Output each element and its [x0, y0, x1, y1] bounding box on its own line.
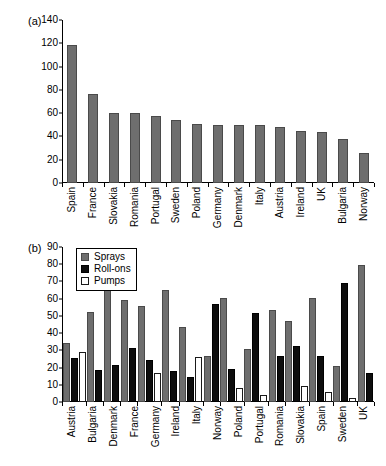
bar-group	[244, 247, 268, 402]
bar	[277, 356, 284, 402]
bar	[179, 327, 186, 402]
x-axis-tick-label: France	[130, 406, 140, 437]
legend-item: Roll-ons	[81, 263, 131, 275]
bar	[171, 120, 181, 183]
legend-item: Sprays	[81, 251, 131, 263]
x-axis-tick-label: Austria	[67, 406, 77, 437]
bar-group	[62, 20, 83, 183]
y-axis-tick-mark	[59, 367, 62, 368]
x-axis-tick-label: UK	[359, 406, 369, 420]
x-axis-label-cell: Ireland	[166, 404, 187, 464]
y-axis-tick-mark	[59, 298, 62, 299]
bar-group	[83, 20, 104, 183]
x-axis-tick-label: Portugal	[255, 406, 265, 443]
x-axis-label-cell: Italy	[249, 185, 270, 235]
x-axis-tick-label: Germany	[151, 406, 161, 447]
bar-group	[104, 20, 125, 183]
y-axis-tick-mark	[59, 281, 62, 282]
bar-group	[208, 20, 229, 183]
legend-swatch	[81, 277, 89, 285]
x-axis-label-cell: Sweden	[166, 185, 187, 235]
x-axis-label-cell: Denmark	[228, 185, 249, 235]
x-axis-tick-label: Romania	[130, 187, 140, 227]
x-axis-label-cell: Portugal	[249, 404, 270, 464]
x-axis-tick-label: UK	[317, 187, 327, 201]
x-axis-tick-label: Denmark	[234, 187, 244, 228]
chart-panel-a: (a) 020406080100120140 SpainFranceSlovak…	[0, 0, 386, 240]
x-axis-tick-label: Bulgaria	[88, 406, 98, 443]
bar	[192, 124, 202, 183]
bar	[154, 373, 161, 402]
bar	[63, 343, 70, 402]
y-axis-tick-mark	[59, 89, 62, 90]
bar	[121, 300, 128, 402]
x-axis-tick-label: Denmark	[109, 406, 119, 447]
bar-group	[145, 20, 166, 183]
bar	[359, 153, 369, 183]
bar	[244, 349, 251, 402]
bar-group	[357, 247, 374, 402]
bar	[213, 125, 223, 183]
x-axis-label-cell: Sweden	[332, 404, 353, 464]
bar	[341, 283, 348, 402]
bar	[151, 116, 161, 183]
x-axis-label-cell: UK	[312, 185, 333, 235]
bar	[301, 386, 308, 402]
x-axis-label-cell: Romania	[270, 404, 291, 464]
x-axis-label-cell: UK	[353, 404, 374, 464]
bar-group	[291, 20, 312, 183]
x-axis-tick-mark	[374, 402, 375, 406]
x-axis-tick-label: Poland	[234, 406, 244, 437]
x-axis-label-cell: Portugal	[145, 185, 166, 235]
x-axis-tick-label: Bulgaria	[338, 187, 348, 224]
x-axis-tick-label: Germany	[213, 187, 223, 228]
bar	[109, 113, 119, 183]
bar	[255, 125, 265, 183]
plot-area-a: 020406080100120140	[62, 20, 374, 183]
bar	[104, 290, 111, 402]
x-axis-tick-label: Austria	[275, 187, 285, 218]
x-axis-label-cell: Slovakia	[291, 404, 312, 464]
bar	[317, 132, 327, 183]
bar	[71, 358, 78, 402]
bar	[130, 113, 140, 183]
x-axis-label-cell: Norway	[208, 404, 229, 464]
x-axis-tick-label: Spain	[317, 406, 327, 432]
bar-group	[332, 20, 353, 183]
bar	[138, 306, 145, 402]
bar	[358, 265, 365, 402]
bar-group	[312, 20, 333, 183]
bar	[87, 312, 94, 402]
bar-group	[270, 20, 291, 183]
bar	[228, 369, 235, 402]
bar	[349, 398, 356, 402]
y-axis-tick-mark	[59, 315, 62, 316]
legend-item: Pumps	[81, 275, 131, 287]
x-axis-label-cell: France	[124, 404, 145, 464]
x-axis-label-cell: Norway	[353, 185, 374, 235]
x-axis-label-cell: Spain	[312, 404, 333, 464]
x-axis-label-cell: Germany	[208, 185, 229, 235]
bar	[204, 356, 211, 402]
bar-group	[333, 247, 357, 402]
bar	[296, 131, 306, 183]
bar	[170, 371, 177, 402]
bar	[269, 310, 276, 402]
bar	[236, 388, 243, 402]
y-axis-tick-mark	[59, 384, 62, 385]
bar	[162, 290, 169, 402]
bar-group	[353, 20, 374, 183]
y-axis-tick-mark	[59, 402, 62, 403]
x-axis-label-cell: Spain	[62, 185, 83, 235]
y-axis-tick-mark	[59, 350, 62, 351]
chart-panel-b: (b) SpraysRoll-onsPumps 0102030405060708…	[0, 240, 386, 466]
bar-group	[179, 247, 203, 402]
legend-label: Pumps	[94, 276, 125, 286]
legend-label: Sprays	[94, 252, 125, 262]
x-axis-labels-b: AustriaBulgariaDenmarkFranceGermanyIrela…	[62, 404, 374, 464]
bar	[146, 360, 153, 402]
x-axis-label-cell: Austria	[270, 185, 291, 235]
bar-group	[285, 247, 309, 402]
bar	[338, 139, 348, 183]
x-axis-label-cell: Germany	[145, 404, 166, 464]
